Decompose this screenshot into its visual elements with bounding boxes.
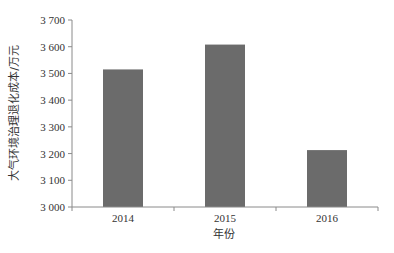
bar-chart: 3 0003 1003 2003 3003 4003 5003 6003 700… xyxy=(0,0,394,253)
y-tick-label: 3 300 xyxy=(40,121,65,133)
y-tick-label: 3 000 xyxy=(40,201,65,213)
y-tick-label: 3 500 xyxy=(40,67,65,79)
bar-2015 xyxy=(205,45,245,207)
y-tick-label: 3 600 xyxy=(40,41,65,53)
bar-2016 xyxy=(307,150,347,207)
y-tick-label: 3 100 xyxy=(40,174,65,186)
bars xyxy=(103,45,347,207)
y-tick-label: 3 200 xyxy=(40,148,65,160)
x-tick-label: 2014 xyxy=(112,212,135,224)
x-axis-title: 年份 xyxy=(213,227,235,241)
y-tick-label: 3 400 xyxy=(40,94,65,106)
y-axis-ticks: 3 0003 1003 2003 3003 4003 5003 6003 700 xyxy=(40,14,72,213)
y-axis-title: 大气环境治理退化成本/万元 xyxy=(7,45,21,181)
x-tick-label: 2015 xyxy=(214,212,237,224)
bar-2014 xyxy=(103,69,143,207)
y-tick-label: 3 700 xyxy=(40,14,65,26)
x-tick-label: 2016 xyxy=(316,212,339,224)
x-axis-ticks: 201420152016 xyxy=(72,207,378,224)
